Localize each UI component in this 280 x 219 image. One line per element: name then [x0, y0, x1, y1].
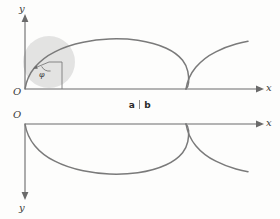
panel-b-x-axis-arrowhead — [256, 121, 264, 128]
panel-label-a: a — [129, 100, 136, 110]
panel-b-cycloid-arch-1 — [25, 124, 189, 174]
panel-label-separator — [139, 100, 140, 109]
panel-a-cycloid-arch-2 — [186, 41, 248, 89]
panel-b-y-axis-arrowhead — [22, 192, 29, 200]
panel-labels: ab — [0, 100, 280, 110]
panel-a-y-axis-arrowhead — [22, 14, 29, 22]
panel-b-x-axis-label: x — [266, 118, 272, 128]
panel-a-group — [22, 14, 264, 92]
panel-b-y-axis-label: y — [19, 203, 25, 213]
panel-a-x-axis-label: x — [266, 83, 272, 93]
panel-a-origin-label: O — [13, 87, 21, 97]
panel-a-angle-phi-label: φ — [39, 70, 45, 79]
panel-label-b: b — [144, 100, 151, 110]
panel-b-cycloid-arch-2 — [186, 124, 248, 172]
panel-a-y-axis-label: y — [19, 4, 25, 14]
panel-b-origin-label: O — [13, 110, 21, 120]
cycloid-figure: O x y φ ab O x y — [0, 0, 280, 219]
panel-b-group — [22, 121, 264, 200]
panel-a-x-axis-arrowhead — [256, 86, 264, 93]
